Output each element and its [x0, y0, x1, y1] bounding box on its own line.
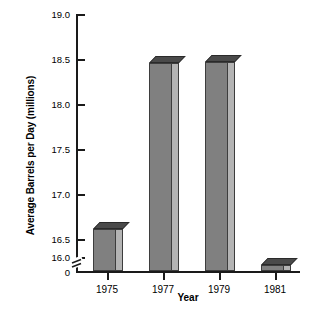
bar-top-face [93, 222, 130, 229]
bar-chart: Average Barrels per Day (millions) 19.0 … [0, 0, 316, 310]
bar-top-face [149, 56, 186, 63]
bar-side-face [116, 229, 123, 271]
y-tick-mark-16-5 [76, 239, 85, 241]
y-tick-label: 18.0 [32, 99, 70, 110]
axis-break-icon [70, 249, 84, 269]
y-tick-mark-18-5 [76, 59, 85, 61]
y-tick-mark-19-0 [76, 14, 85, 16]
plot-area: 19.0 18.5 18.0 17.5 17.0 16.5 16.0 0 [76, 14, 300, 272]
y-tick-label: 17.0 [32, 189, 70, 200]
bar-side-face [172, 63, 179, 271]
y-tick-mark-17-0 [76, 194, 85, 196]
x-axis-title: Year [76, 292, 300, 303]
y-tick-label: 16.0 [32, 252, 70, 263]
x-tick-mark-1975 [107, 272, 109, 280]
bar-front-face [261, 265, 284, 271]
bar-top-face [261, 258, 298, 265]
bar-front-face [205, 62, 228, 271]
y-tick-label: 16.5 [32, 234, 70, 245]
x-axis-line [76, 271, 300, 273]
y-tick-mark-18-0 [76, 104, 85, 106]
x-tick-mark-1979 [219, 272, 221, 280]
bar-side-face [284, 265, 291, 271]
y-tick-label: 19.0 [32, 9, 70, 20]
y-tick-label: 18.5 [32, 54, 70, 65]
bar-front-face [149, 63, 172, 271]
x-tick-mark-1977 [163, 272, 165, 280]
y-tick-mark-17-5 [76, 149, 85, 151]
bar-front-face [93, 229, 116, 271]
x-tick-mark-1981 [275, 272, 277, 280]
bar-side-face [228, 62, 235, 271]
y-tick-label: 17.5 [32, 144, 70, 155]
bar-top-face [205, 55, 242, 62]
y-axis-line [76, 14, 78, 272]
y-tick-label: 0 [32, 267, 70, 278]
